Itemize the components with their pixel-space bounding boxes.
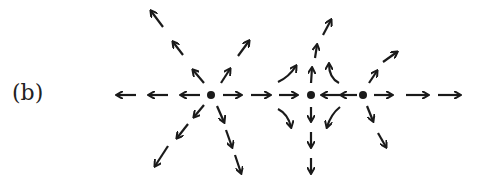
curved-arrow-icon [327, 107, 340, 127]
arrow-icon [194, 105, 204, 117]
arrow-icon [221, 69, 230, 83]
arrow-icon [367, 106, 373, 121]
arrow-icon [383, 52, 397, 62]
fixed-point-dot [307, 91, 315, 99]
arrow-icon [226, 130, 232, 147]
arrow-icon [235, 155, 241, 173]
arrow-icon [369, 71, 377, 83]
fixed-point-dot [359, 91, 367, 99]
arrow-icon [177, 124, 188, 138]
arrow-icon [238, 41, 249, 56]
arrow-icon [311, 68, 312, 83]
vector-field-diagram [0, 0, 480, 190]
arrow-icon [323, 20, 331, 35]
arrow-icon [315, 45, 317, 58]
arrow-icon [155, 146, 168, 166]
arrow-group [117, 11, 460, 173]
curved-arrow-icon [278, 66, 296, 82]
arrow-icon [217, 106, 224, 122]
curved-arrow-icon [278, 109, 291, 127]
arrow-icon [151, 11, 163, 27]
fixed-point-dot [207, 91, 215, 99]
curved-arrow-icon [329, 64, 339, 83]
arrow-icon [378, 133, 386, 147]
arrow-icon [193, 70, 204, 83]
arrow-icon [173, 42, 183, 55]
